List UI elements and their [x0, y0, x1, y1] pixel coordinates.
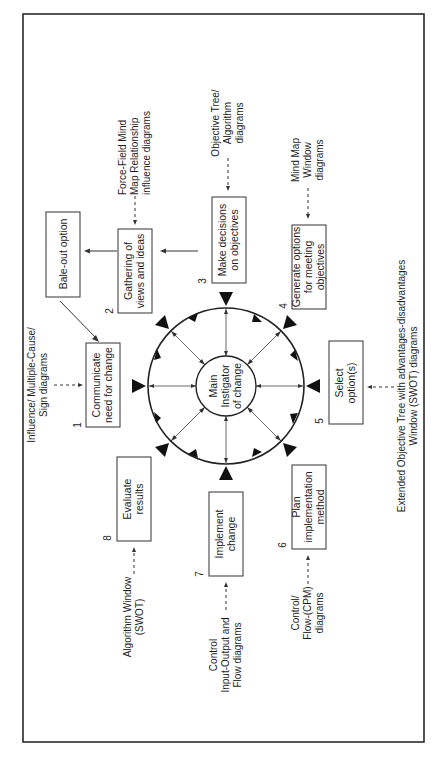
step-8-tool-line: (SWOT) [134, 599, 145, 636]
step-1-number: 1 [72, 422, 83, 428]
step-6: Plan implementation method 6 Control/ Fl… [277, 465, 326, 640]
triangle-top-right [283, 315, 297, 329]
step-7-number: 7 [194, 571, 205, 577]
arrowhead-icon [132, 547, 136, 552]
step-3-tool-line: diagrams [234, 102, 245, 143]
triangle-right [306, 379, 320, 393]
arrowhead-icon [306, 555, 310, 560]
step-4-tool: Mind Map Window diagrams [290, 138, 325, 182]
triangle-top-left [155, 315, 169, 329]
arrowhead-icon [160, 249, 166, 254]
step-5-tool-line: Window (SWOT) diagrams [408, 327, 419, 446]
step-5-label: option(s) [345, 363, 357, 404]
step-6-label: Plan [290, 496, 302, 517]
step-4-tool-line: Window [302, 141, 313, 177]
step-7-label: change [225, 517, 237, 552]
hub-label-line: of change [231, 363, 243, 409]
step-6-tool: Control/ Flow-(CPM) diagrams [290, 586, 325, 639]
step-8: Evaluate results 8 Algorithm Window (SWO… [102, 457, 151, 657]
step-2-label: Gathering of [122, 242, 134, 300]
spoke-top-right [247, 331, 281, 365]
step-3-tool: Objective Tree/ Algorithm diagrams [210, 89, 245, 156]
step-3-label: Make decisions [216, 204, 228, 276]
hub-label-line: Main [207, 374, 219, 397]
step-7-tool-line: Input-Output and [220, 617, 231, 692]
step-8-tool: Algorithm Window (SWOT) [122, 576, 145, 657]
change-process-diagram: Main Instigator of change Communicate ne… [0, 0, 442, 761]
step-2-tool-line: Map Relationship [129, 117, 140, 195]
step-1-label: Communicate [90, 352, 102, 417]
step-4-label: for meeting [302, 241, 314, 294]
step-7-tool: Control Input-Output and Flow diagrams [208, 617, 243, 692]
step-1-label: need for change [102, 347, 114, 423]
triangle-top [219, 292, 233, 306]
arrowhead-icon [133, 220, 137, 225]
step-5: Select option(s) 5 Extended Objective Tr… [314, 260, 419, 512]
ring-arrow [154, 412, 161, 423]
step-3-number: 3 [197, 278, 208, 284]
step-2-number: 2 [104, 308, 115, 314]
step-1-tool: Influence/ Multiple-Cause/ Sign diagrams [26, 327, 49, 443]
bale-out-to-step-1-arrow [60, 301, 97, 339]
step-7-tool-line: Control [208, 639, 219, 671]
step-3-tool-line: Objective Tree/ [210, 89, 221, 156]
step-7-label: Implement [213, 509, 225, 558]
step-6-tool-line: diagrams [314, 592, 325, 633]
bale-out: Bale-out option [46, 212, 117, 342]
hub-label-line: Instigator [219, 364, 231, 408]
arrowhead-icon [84, 249, 90, 254]
step-4-label: objectives [314, 244, 326, 291]
step-2-tool: Force-Field Mind Map Relationship influe… [117, 111, 152, 195]
step-4-label: Generate options [290, 227, 302, 308]
arrowhead-icon [92, 335, 99, 342]
step-3-tool-line: Algorithm [222, 102, 233, 144]
spoke-bottom-right [247, 407, 281, 441]
arrowhead-icon [226, 186, 230, 191]
step-8-label: Evaluate [121, 478, 133, 519]
step-2-tool-line: Force-Field Mind [117, 120, 128, 195]
step-3: Make decisions on objectives 3 Objective… [197, 89, 246, 284]
step-6-number: 6 [277, 542, 288, 548]
triangle-bottom-left [155, 443, 169, 457]
step-6-label: method [314, 489, 326, 524]
arrowhead-icon [306, 214, 310, 219]
step-8-number: 8 [102, 535, 113, 541]
triangle-left [132, 379, 146, 393]
triangle-bottom [219, 466, 233, 480]
step-8-label: results [133, 484, 145, 515]
step-1-tool-line: Influence/ Multiple-Cause/ [26, 327, 37, 443]
step-7-tool-line: Flow diagrams [232, 622, 243, 687]
step-4-tool-line: diagrams [314, 139, 325, 180]
step-6-tool-line: Control/ [290, 595, 301, 630]
spoke-bottom-left [171, 407, 205, 441]
step-6-label: implementation [302, 471, 314, 542]
step-4: Generate options for meeting objectives … [278, 138, 326, 309]
spoke-top-left [171, 331, 205, 365]
bale-out-label: Bale-out option [57, 219, 69, 290]
step-5-number: 5 [314, 418, 325, 424]
step-8-tool-line: Algorithm Window [122, 576, 133, 657]
step-2: Gathering of views and ideas 2 Force-Fie… [104, 111, 198, 314]
ring-arrow [188, 313, 198, 322]
step-6-tool-line: Flow-(CPM) [302, 586, 313, 639]
step-2-tool-line: influence diagrams [141, 111, 152, 195]
arrowhead-icon [78, 383, 83, 387]
arrowhead-icon [367, 385, 372, 389]
step-2-label: views and ideas [134, 234, 146, 309]
step-7: Implement change 7 Control Input-Output … [194, 492, 243, 693]
step-5-tool-line: Extended Objective Tree with advantages-… [396, 260, 407, 512]
step-1-tool-line: Sign diagrams [38, 353, 49, 417]
cycle-ring-group: Main Instigator of change [132, 292, 320, 480]
step-4-tool-line: Mind Map [290, 138, 301, 182]
step-1: Communicate need for change 1 Influence/… [26, 327, 120, 443]
step-5-tool: Extended Objective Tree with advantages-… [396, 260, 419, 512]
arrowhead-icon [224, 582, 228, 587]
step-3-label: on objectives [228, 209, 240, 270]
triangle-bottom-right [283, 443, 297, 457]
step-4-number: 4 [278, 303, 289, 309]
step-5-label: Select [333, 368, 345, 397]
